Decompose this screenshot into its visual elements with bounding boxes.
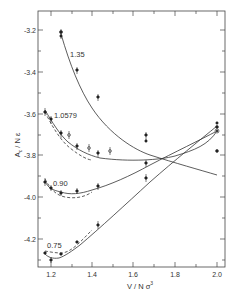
chart: 1.2 1.4 1.6 1.8 2.0 -3.2 -3.4 -3.6 -3.8 … bbox=[0, 0, 238, 294]
y-tick-label: -3.8 bbox=[24, 152, 36, 159]
x-tick-label: 2.0 bbox=[212, 271, 222, 278]
x-tick-label: 1.4 bbox=[87, 271, 97, 278]
y-tick-label: -3.4 bbox=[24, 69, 36, 76]
curve-label-0.90: 0.90 bbox=[53, 179, 68, 188]
y-axis-title: Ac / N ε bbox=[13, 132, 23, 157]
curve-label-1.0579: 1.0579 bbox=[54, 111, 77, 120]
y-tick-labels: -3.2 -3.4 -3.6 -3.8 -4.0 -4.2 bbox=[24, 27, 36, 243]
y-ticks bbox=[38, 30, 225, 260]
x-tick-label: 1.8 bbox=[170, 271, 180, 278]
curve-label-0.75: 0.75 bbox=[47, 241, 62, 250]
y-tick-label: -4.0 bbox=[24, 194, 36, 201]
x-tick-label: 1.6 bbox=[128, 271, 138, 278]
x-tick-label: 1.2 bbox=[46, 271, 56, 278]
y-tick-label: -3.6 bbox=[24, 111, 36, 118]
y-tick-label: -4.2 bbox=[24, 236, 36, 243]
curve-0.90 bbox=[45, 131, 217, 194]
y-tick-label: -3.2 bbox=[24, 27, 36, 34]
x-tick-labels: 1.2 1.4 1.6 1.8 2.0 bbox=[46, 271, 222, 278]
curve-label-1.35: 1.35 bbox=[70, 50, 85, 59]
curves bbox=[45, 34, 217, 258]
x-axis-title: V / N σ3 bbox=[127, 280, 153, 291]
